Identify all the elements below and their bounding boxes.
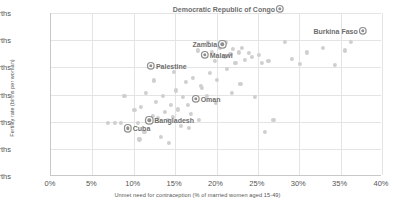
x-axis-tick-label: 20%	[208, 179, 223, 188]
gridline-horizontal	[51, 13, 381, 14]
gridline-vertical	[382, 13, 383, 175]
data-point-label: Oman	[201, 95, 221, 102]
x-axis-title: Unmet need for contraception (% of marri…	[0, 192, 395, 198]
x-axis-tick-label: 35%	[332, 179, 347, 188]
x-axis-tick-label: 15%	[167, 179, 182, 188]
data-point-label: Malawi	[210, 52, 233, 59]
data-point-label: Burkina Faso	[313, 27, 357, 34]
scatter-chart: 0 births1 births2 births3 births4 births…	[0, 0, 395, 206]
x-axis-tick-label: 40%	[373, 179, 388, 188]
y-axis-tick-label: 6 births	[0, 9, 11, 18]
x-axis-tick-label: 0%	[45, 179, 56, 188]
x-axis-tick-label: 25%	[249, 179, 264, 188]
x-axis-tick-label: 5%	[86, 179, 97, 188]
y-axis-title: Fertility rate (births per woman)	[9, 33, 15, 163]
x-axis-tick-label: 30%	[291, 179, 306, 188]
data-point-label: Bangladesh	[154, 117, 194, 124]
y-axis-tick-label: 0 births	[0, 172, 11, 181]
data-point-label: Democratic Republic of Congo	[173, 5, 275, 12]
gridline-horizontal	[51, 122, 381, 123]
x-axis-tick-label: 10%	[125, 179, 140, 188]
data-point-label: Cuba	[133, 125, 151, 132]
data-point-highlighted[interactable]	[278, 7, 281, 10]
data-point-label: Palestine	[156, 62, 187, 69]
gridline-horizontal	[51, 67, 381, 68]
gridline-horizontal	[51, 149, 381, 150]
data-point-label: Zambia	[193, 41, 218, 48]
